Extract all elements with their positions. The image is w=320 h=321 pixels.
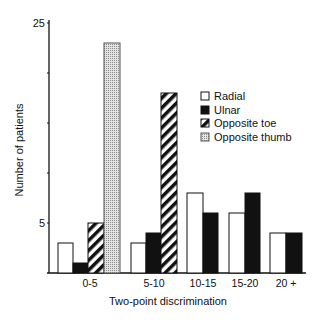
bar-opposite-toe xyxy=(88,223,104,273)
legend: Radial Ulnar Opposite toe Opposite thumb xyxy=(201,90,292,143)
bar-radial xyxy=(229,213,245,273)
bar-radial xyxy=(187,193,203,273)
x-axis-title: Two-point discrimination xyxy=(109,295,227,307)
y-tick-label-5: 5 xyxy=(39,217,45,229)
bar-opposite-toe xyxy=(161,93,177,273)
bar-ulnar xyxy=(73,263,88,273)
bar-group-5-10 xyxy=(131,93,177,273)
bar-group-20-plus xyxy=(270,233,302,273)
x-tick-label: 15-20 xyxy=(232,277,259,289)
legend-label: Opposite thumb xyxy=(214,131,292,143)
bar-radial xyxy=(131,243,146,273)
bar-ulnar xyxy=(146,233,161,273)
legend-swatch-opposite-thumb xyxy=(201,133,209,141)
bar-group-0-5 xyxy=(58,43,120,273)
legend-swatch-opposite-toe xyxy=(201,119,209,127)
bar-ulnar xyxy=(286,233,302,273)
bar-chart: 25 5 Number of patients Two-point discri… xyxy=(0,0,320,321)
bar-radial xyxy=(270,233,286,273)
bar-ulnar xyxy=(203,213,218,273)
bar-group-15-20 xyxy=(229,193,260,273)
legend-swatch-radial xyxy=(201,92,209,100)
y-tick-label-25: 25 xyxy=(33,17,45,29)
bar-opposite-thumb xyxy=(104,43,120,273)
legend-swatch-ulnar xyxy=(201,106,209,114)
y-axis xyxy=(47,20,49,273)
x-tick-label: 5-10 xyxy=(143,277,164,289)
bar-ulnar xyxy=(245,193,260,273)
legend-label: Radial xyxy=(214,90,245,102)
x-tick-label: 10-15 xyxy=(190,277,217,289)
legend-label: Ulnar xyxy=(214,104,241,116)
bar-group-10-15 xyxy=(187,193,218,273)
x-tick-label: 20 + xyxy=(276,277,297,289)
bar-radial xyxy=(58,243,73,273)
x-tick-label: 0-5 xyxy=(82,277,97,289)
y-axis-title: Number of patients xyxy=(13,103,25,196)
legend-label: Opposite toe xyxy=(214,117,276,129)
